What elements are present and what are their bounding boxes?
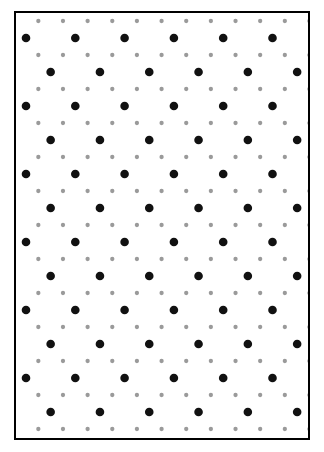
minor-dot [61, 291, 65, 295]
minor-dot [159, 155, 163, 159]
minor-dot [233, 19, 237, 23]
minor-dot [307, 393, 308, 397]
minor-dot [258, 189, 262, 193]
major-dot [22, 102, 31, 111]
minor-dot [184, 19, 188, 23]
minor-dot [135, 223, 139, 227]
figure-caption [14, 444, 314, 452]
minor-dot [307, 359, 308, 363]
major-dot [145, 68, 154, 77]
minor-dot [110, 291, 114, 295]
minor-dot [258, 155, 262, 159]
minor-dot [159, 87, 163, 91]
minor-dot [61, 359, 65, 363]
minor-dot [110, 427, 114, 431]
minor-dot [184, 359, 188, 363]
major-dot [120, 34, 129, 43]
minor-dot [110, 359, 114, 363]
minor-dot [184, 393, 188, 397]
lattice-panel [14, 11, 310, 440]
minor-dot [159, 427, 163, 431]
major-dot [170, 238, 179, 247]
major-dot [71, 34, 80, 43]
minor-dot [36, 19, 40, 23]
minor-dot [110, 53, 114, 57]
minor-dot [283, 359, 287, 363]
minor-dot [85, 427, 89, 431]
minor-dot [61, 325, 65, 329]
minor-dot [258, 53, 262, 57]
major-dot [145, 204, 154, 213]
minor-dot [36, 87, 40, 91]
minor-dot [209, 291, 213, 295]
minor-dot [110, 121, 114, 125]
minor-dot [85, 257, 89, 261]
minor-dot [36, 393, 40, 397]
minor-dot [85, 291, 89, 295]
major-dot [194, 68, 203, 77]
minor-dot [36, 53, 40, 57]
major-dot [293, 68, 302, 77]
minor-dot [85, 359, 89, 363]
major-dot [170, 306, 179, 315]
major-dot [120, 102, 129, 111]
minor-dot [36, 359, 40, 363]
minor-dot [110, 189, 114, 193]
minor-dot [36, 121, 40, 125]
minor-dot [159, 189, 163, 193]
minor-dot [135, 359, 139, 363]
minor-dot [61, 87, 65, 91]
minor-dot [159, 325, 163, 329]
minor-dot [135, 189, 139, 193]
minor-dot [283, 189, 287, 193]
major-dot [71, 238, 80, 247]
minor-dot [110, 325, 114, 329]
minor-dot [159, 359, 163, 363]
major-dot [46, 408, 55, 417]
minor-dot [283, 427, 287, 431]
minor-dot [184, 291, 188, 295]
minor-dot [209, 223, 213, 227]
major-dot [96, 340, 105, 349]
minor-dot [233, 427, 237, 431]
minor-dot [61, 189, 65, 193]
major-dot [71, 102, 80, 111]
major-dot [268, 306, 277, 315]
major-dot [71, 374, 80, 383]
minor-dot [61, 427, 65, 431]
minor-dot [307, 121, 308, 125]
minor-dot [184, 427, 188, 431]
major-dot [244, 68, 253, 77]
major-dot [120, 374, 129, 383]
minor-dot [184, 87, 188, 91]
major-dot [170, 170, 179, 179]
minor-dot [61, 19, 65, 23]
minor-dot [283, 325, 287, 329]
minor-dot [159, 121, 163, 125]
major-dot [219, 102, 228, 111]
minor-dot [61, 121, 65, 125]
minor-dot [283, 121, 287, 125]
minor-dot [307, 427, 308, 431]
major-dot [22, 238, 31, 247]
minor-dot [135, 257, 139, 261]
minor-dot [159, 19, 163, 23]
major-dot [120, 170, 129, 179]
minor-dot [184, 189, 188, 193]
minor-dot [85, 53, 89, 57]
minor-dot [36, 223, 40, 227]
major-dot [293, 408, 302, 417]
minor-dot [184, 155, 188, 159]
minor-dot [233, 87, 237, 91]
minor-dot [135, 87, 139, 91]
major-dot [194, 272, 203, 281]
minor-dot [159, 223, 163, 227]
major-dot [170, 102, 179, 111]
minor-dot [233, 291, 237, 295]
major-dot [244, 136, 253, 145]
major-dot [244, 272, 253, 281]
minor-dot [258, 223, 262, 227]
major-dot [145, 340, 154, 349]
minor-dot [209, 19, 213, 23]
major-dot [120, 238, 129, 247]
